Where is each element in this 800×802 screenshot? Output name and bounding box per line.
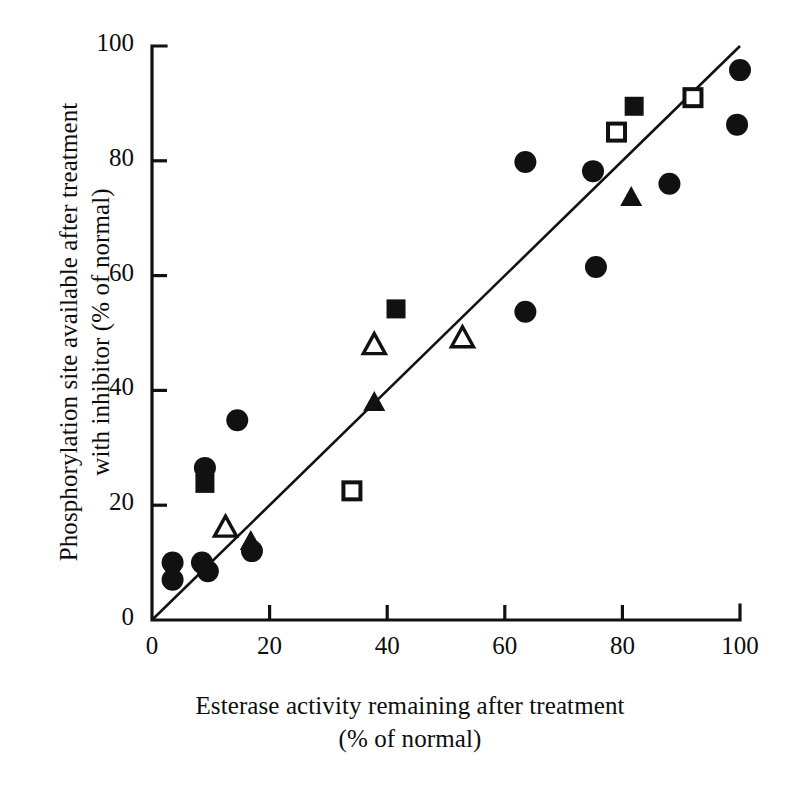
marker-open-triangle [363,334,385,354]
x-tick-label: 0 [112,632,192,660]
data-markers [162,59,751,591]
x-tick-label: 20 [230,632,310,660]
marker-filled-circle [162,569,184,591]
x-tick-label: 80 [582,632,662,660]
marker-filled-circle [514,301,536,323]
marker-filled-square [195,474,214,493]
y-tick-label: 60 [44,259,134,287]
figure-container: Phosphorylation site available after tre… [0,0,800,802]
x-tick-label: 40 [347,632,427,660]
y-tick-label: 0 [44,603,134,631]
marker-open-triangle [215,516,237,536]
y-tick-label: 100 [44,29,134,57]
marker-filled-circle [514,151,536,173]
marker-open-square [343,482,360,499]
marker-filled-square [387,299,406,318]
marker-filled-triangle [240,530,262,550]
marker-filled-circle [729,59,751,81]
x-tick-label: 100 [700,632,780,660]
marker-filled-square [625,97,644,116]
x-tick-label: 60 [465,632,545,660]
marker-filled-circle [226,409,248,431]
marker-filled-circle [582,160,604,182]
marker-filled-circle [197,560,219,582]
marker-filled-circle [726,114,748,136]
identity-line [152,46,740,620]
marker-open-triangle [451,327,473,347]
y-tick-label: 80 [44,144,134,172]
marker-open-square [608,124,625,141]
y-tick-label: 40 [44,373,134,401]
trend-line [152,46,740,620]
y-tick-label: 20 [44,488,134,516]
marker-open-square [684,89,701,106]
marker-filled-circle [658,173,680,195]
marker-filled-circle [585,256,607,278]
marker-filled-triangle [620,186,642,206]
